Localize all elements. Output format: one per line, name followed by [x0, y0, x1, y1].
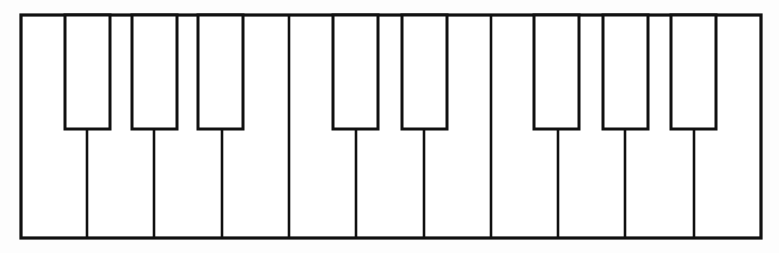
piano-keyboard-figure	[0, 0, 779, 253]
black-key-1[interactable]	[65, 15, 110, 129]
black-key-7[interactable]	[603, 15, 648, 129]
piano-keyboard-diagram	[0, 0, 779, 253]
black-key-4[interactable]	[333, 15, 378, 129]
black-key-2[interactable]	[132, 15, 177, 129]
black-key-6[interactable]	[534, 15, 579, 129]
black-key-8[interactable]	[671, 15, 716, 129]
black-key-5[interactable]	[402, 15, 447, 129]
black-key-3[interactable]	[198, 15, 243, 129]
